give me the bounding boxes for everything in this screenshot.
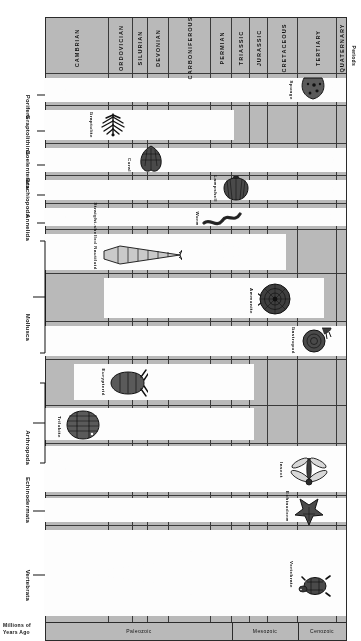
period-cell: CARBONIFEROUS [169,17,211,79]
phylum-label-arthropoda: Arthropoda [0,430,31,465]
organism-label-graptolite: Graptolite [89,112,94,138]
organism-label-coral: Coral [127,158,132,172]
phylum-label-porifera: Porifera [0,95,31,119]
worm-illustration [202,208,242,230]
grid-line-horizontal [46,495,346,496]
grid-line-horizontal [46,175,346,176]
organism-label-nautiloid: Straight-shelled Nautiloid [93,203,98,270]
period-label: DEVONIAN [155,29,161,67]
organism-label-ammonite: Ammonite [249,288,254,314]
lampshell-illustration [222,176,250,202]
period-cell: PERMIAN [211,17,232,79]
organism-label-worm: Worm [195,211,200,226]
period-cell: JURASSIC [250,17,268,79]
nautiloid-illustration [102,242,182,268]
era-header-row: Cenozoic Mesozoic Paleozoic [45,623,347,641]
period-cell: TERTIARY [299,17,338,79]
organism-label-vertebrate: Vertebrate [289,561,294,588]
grid-line-horizontal [46,203,346,204]
axis-caption-periods: Periods [351,46,357,66]
period-cell: CRETACEOUS [269,17,299,79]
period-label: SILURIAN [137,31,143,66]
organism-label-eurypterid: Eurypterid [101,369,106,396]
grid-line-horizontal [46,105,346,106]
organism-label-trilobite: Trilobite [57,416,62,438]
starfish-illustration [294,498,324,526]
eurypterid-illustration [108,368,148,398]
period-cell: ORDOVICIAN [108,17,132,79]
organism-label-echinoderm: Echinoderm [285,491,290,522]
period-cell: QUATERNARY [338,17,347,79]
coral-illustration [134,144,168,174]
abundance-band-lampshell [44,180,346,200]
grid-line-horizontal [46,405,346,406]
era-label: Paleozoic [126,629,151,635]
geologic-time-chart: Cenozoic Mesozoic Paleozoic 2 75 135 185… [0,0,361,641]
grid-line-horizontal [46,443,346,444]
grid-line-horizontal [46,229,346,230]
ammonite-illustration [258,282,292,316]
era-cell: Cenozoic [298,623,346,640]
axis-caption-millions-of-years: Millions of Years Ago [3,622,39,635]
graptolite-illustration [98,112,128,138]
era-cell: Paleozoic [46,623,232,640]
phylum-brackets [31,17,47,623]
phylum-label-vertebrata: Vertebrata [0,570,31,601]
period-label: CAMBRIAN [74,29,80,68]
period-label: QUATERNARY [339,23,345,72]
period-label: TRIASSIC [238,31,244,65]
period-label-row: QUATERNARY TERTIARY CRETACEOUS JURASSIC … [45,17,347,79]
period-cell: DEVONIAN [148,17,169,79]
period-label: JURASSIC [256,30,262,67]
period-label: CRETACEOUS [281,23,287,72]
organism-label-sponge: Sponge [289,81,294,100]
period-cell: SILURIAN [133,17,148,79]
organism-label-insect: Insect [279,462,284,478]
period-label: PERMIAN [219,31,225,64]
abundance-band-graptolite [44,110,234,140]
era-cell: Mesozoic [232,623,298,640]
trilobite-illustration [66,410,100,440]
grid-line-horizontal [46,143,346,144]
phylum-label-graptolithina: Graptolithina [0,115,31,155]
period-cell: CAMBRIAN [45,17,108,79]
organism-label-lampshell: Lampshell [213,175,218,202]
phylum-label-coelenterata: Coelenterata [0,150,31,189]
organism-label-gastropod: Gastropod [291,327,296,354]
chart-plot-area: Vertebrate Echinoderm Insect Trilobite E… [45,17,347,623]
dragonfly-illustration [288,450,330,488]
grid-line-horizontal [46,359,346,360]
phylum-label-mollusca: Mollusca [0,314,31,341]
phylum-label-annelida: Annelida [0,214,31,241]
gastropod-illustration [300,326,332,356]
period-label: TERTIARY [315,30,321,66]
abundance-band-coral [44,148,346,172]
grid-line-horizontal [46,321,346,322]
grid-line-horizontal [46,273,346,274]
era-label: Cenozoic [310,629,334,635]
sponge-illustration [298,76,328,102]
period-label: ORDOVICIAN [118,25,124,71]
turtle-illustration [298,572,332,600]
phylum-label-echinodermata: Echinodermata [0,477,31,523]
era-label: Mesozoic [253,629,277,635]
period-cell: TRIASSIC [232,17,250,79]
period-label: CARBONIFEROUS [187,17,193,80]
